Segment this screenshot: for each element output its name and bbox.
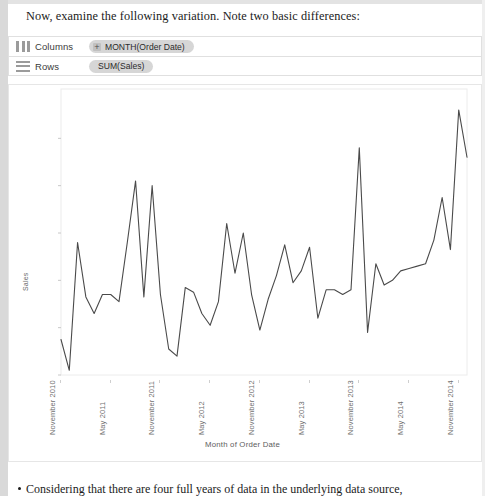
intro-paragraph: Now, examine the following variation. No… — [26, 9, 466, 24]
x-tick-mark — [458, 380, 459, 383]
pill-month-order-date[interactable]: + MONTH(Order Date) — [89, 40, 194, 53]
x-tick-mark — [110, 380, 111, 383]
tableau-shelves: Columns + MONTH(Order Date) Rows SUM(Sal… — [8, 36, 482, 76]
x-tick-label: May 2014 — [396, 401, 405, 435]
pill-month-order-date-label: MONTH(Order Date) — [105, 42, 185, 52]
x-tick-label: November 2010 — [48, 380, 57, 435]
x-tick-mark — [408, 380, 409, 383]
x-tick-mark — [259, 380, 260, 383]
x-tick-mark — [209, 380, 210, 383]
pill-sum-sales[interactable]: SUM(Sales) — [89, 60, 153, 73]
rows-shelf[interactable]: Rows SUM(Sales) — [8, 56, 482, 76]
x-axis-ticks: Month of Order Date November 2010May 201… — [0, 380, 485, 455]
x-tick-mark — [60, 380, 61, 383]
x-tick-label: May 2013 — [297, 401, 306, 435]
pill-expand-icon[interactable]: + — [93, 43, 101, 51]
footer-bullet-text: Considering that there are four full yea… — [26, 482, 476, 496]
footer-bullet-marker — [18, 487, 21, 490]
columns-shelf[interactable]: Columns + MONTH(Order Date) — [8, 36, 482, 56]
x-tick-label: November 2013 — [346, 380, 355, 435]
x-tick-label: May 2012 — [197, 401, 206, 435]
pill-sum-sales-label: SUM(Sales) — [98, 61, 144, 71]
x-tick-label: May 2011 — [98, 402, 107, 435]
columns-shelf-label: Columns — [35, 41, 87, 52]
x-axis-title: Month of Order Date — [0, 440, 485, 449]
x-tick-mark — [309, 380, 310, 383]
columns-icon — [16, 41, 30, 52]
x-tick-mark — [358, 380, 359, 383]
rows-icon — [16, 61, 30, 72]
x-tick-label: November 2011 — [147, 381, 156, 435]
x-tick-mark — [159, 380, 160, 383]
x-tick-label: November 2014 — [446, 380, 455, 435]
page-top-rule — [8, 0, 482, 4]
rows-shelf-label: Rows — [35, 61, 87, 72]
x-tick-label: November 2012 — [247, 380, 256, 435]
